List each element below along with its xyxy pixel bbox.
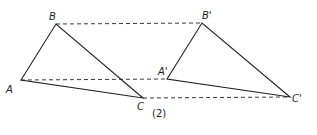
dashed-line-b	[56, 23, 202, 24]
vertex-label: C'	[292, 93, 302, 104]
figure-caption: (2)	[152, 108, 166, 119]
dashed-line-c	[143, 97, 290, 98]
triangles	[21, 23, 290, 98]
vertex-labels: ABCA'B'C'	[5, 10, 302, 112]
dashed-connectors	[21, 23, 290, 98]
vertex-label: C	[137, 101, 144, 112]
translation-diagram: ABCA'B'C' (2)	[0, 0, 317, 135]
vertex-label: A	[5, 84, 13, 95]
vertex-label: B	[49, 11, 56, 22]
triangle-original	[21, 24, 143, 98]
vertex-label: A'	[157, 66, 168, 77]
dashed-line-a	[21, 79, 167, 80]
triangle-translated	[167, 23, 290, 97]
vertex-label: B'	[202, 10, 212, 21]
